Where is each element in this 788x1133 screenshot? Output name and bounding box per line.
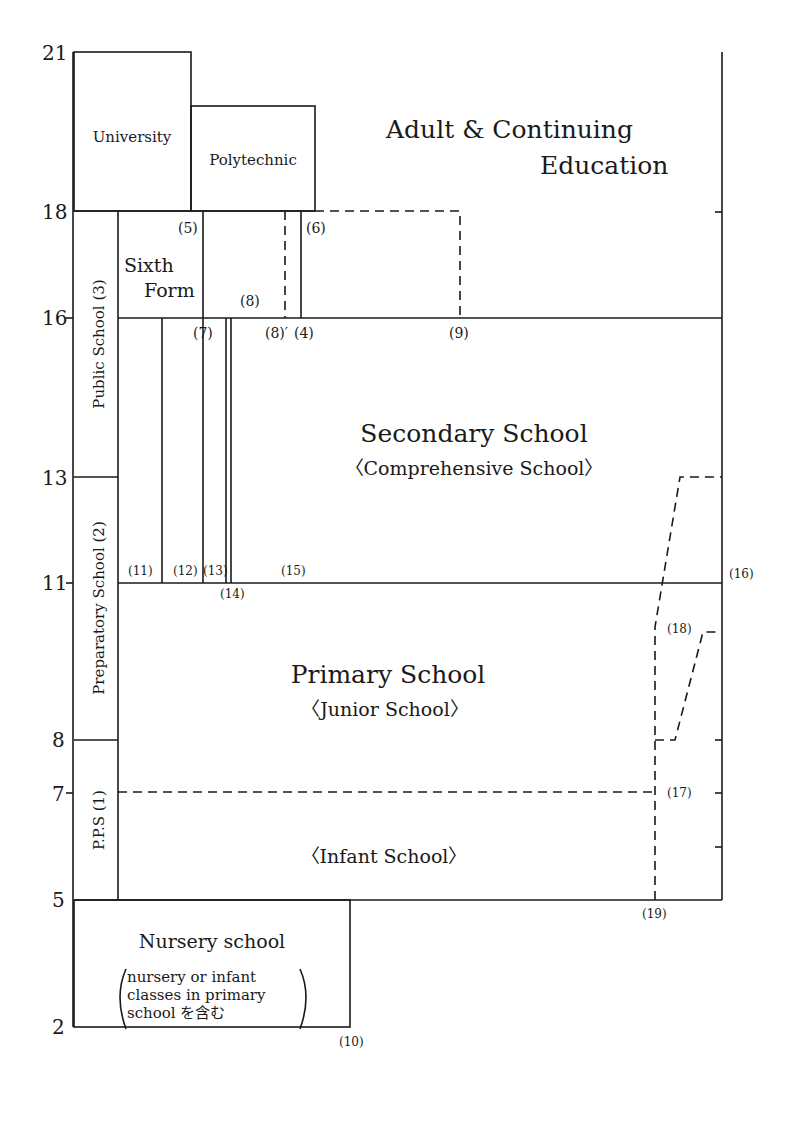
nursery-note-line3: school を含む: [127, 1004, 225, 1022]
adult-education-label-line2: Education: [540, 151, 668, 180]
nursery-left-paren: [120, 969, 126, 1029]
secondary-school-title: Secondary School: [360, 419, 587, 448]
age-label-7: 7: [52, 782, 65, 806]
note-15: (15): [281, 564, 306, 578]
note-5: (5): [178, 220, 198, 236]
age-label-8: 8: [52, 728, 65, 752]
note-19: (19): [642, 907, 667, 921]
dashed-route-18-lower: [655, 632, 722, 740]
age-label-21: 21: [42, 41, 67, 65]
adult-education-label-line1: Adult & Continuing: [385, 115, 633, 144]
note-10: (10): [339, 1035, 364, 1049]
age-label-13: 13: [42, 466, 67, 490]
polytechnic-label: Polytechnic: [209, 151, 297, 169]
infant-school-label: 〈Infant School〉: [301, 845, 468, 867]
sixth-form-label-line2: Form: [144, 279, 195, 301]
pps-label: P.P.S (1): [90, 790, 108, 850]
sixth-form-label-line1: Sixth: [124, 254, 174, 276]
preparatory-school-label: Preparatory School (2): [90, 521, 108, 694]
note-8: (8): [240, 293, 260, 309]
university-label: University: [93, 128, 172, 146]
note-18: (18): [667, 622, 692, 636]
note-4: (4): [294, 325, 314, 341]
note-9: (9): [449, 325, 469, 341]
primary-school-title: Primary School: [291, 660, 486, 689]
nursery-note-line1: nursery or infant: [127, 968, 256, 986]
note-16: (16): [729, 567, 754, 581]
note-12: (12): [173, 564, 198, 578]
note-11: (11): [128, 564, 153, 578]
nursery-title: Nursery school: [139, 930, 285, 952]
dashed-route-9: [315, 211, 460, 318]
nursery-note-line2: classes in primary: [127, 986, 266, 1004]
age-label-18: 18: [42, 200, 67, 224]
education-system-diagram: 21 18 16 13 11 8 7 5 2 University Polyte…: [0, 0, 788, 1133]
secondary-school-subtitle: 〈Comprehensive School〉: [345, 457, 604, 479]
note-17: (17): [667, 786, 692, 800]
dashed-route-18-upper: [655, 477, 722, 900]
age-label-2: 2: [52, 1015, 65, 1039]
note-6: (6): [306, 220, 326, 236]
note-8-prime: (8)′: [265, 325, 288, 341]
age-label-11: 11: [42, 571, 67, 595]
note-14: (14): [220, 587, 245, 601]
age-label-16: 16: [42, 306, 67, 330]
note-13: (13): [203, 564, 228, 578]
note-7: (7): [193, 325, 213, 341]
primary-school-subtitle: 〈Junior School〉: [301, 698, 469, 720]
nursery-right-paren: [300, 969, 306, 1029]
age-label-5: 5: [52, 888, 65, 912]
public-school-label: Public School (3): [90, 279, 108, 408]
